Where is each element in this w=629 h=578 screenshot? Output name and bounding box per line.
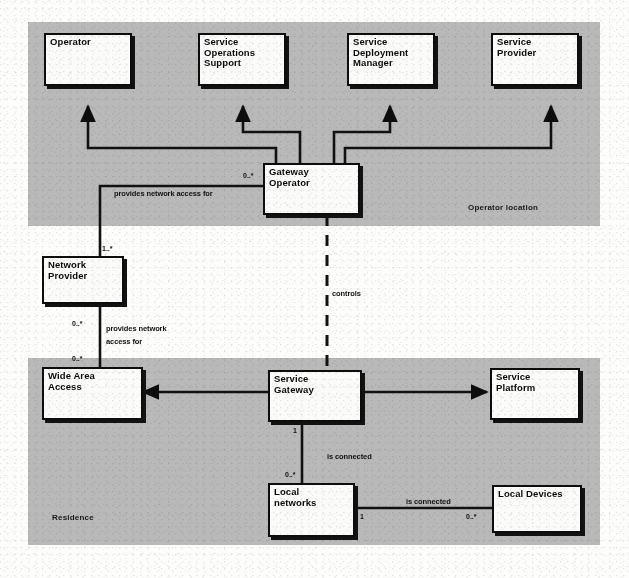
node-service-platform[interactable]: Service Platform bbox=[490, 368, 580, 420]
edge-label-is-connected-devices: is connected bbox=[406, 497, 451, 506]
node-local-devices[interactable]: Local Devices bbox=[492, 485, 582, 533]
diagram-canvas: Operator location Residence bbox=[0, 0, 629, 578]
edge-label-provides-network-line1: provides network bbox=[106, 324, 167, 333]
node-local-networks[interactable]: Local networks bbox=[268, 483, 355, 537]
node-service-deployment-manager[interactable]: Service Deployment Manager bbox=[347, 33, 435, 86]
node-operator[interactable]: Operator bbox=[44, 33, 132, 86]
edge-label-is-connected-gateway: is connected bbox=[327, 452, 372, 461]
node-local-devices-label: Local Devices bbox=[498, 489, 578, 500]
edge-gwop-to-sp bbox=[345, 106, 551, 163]
node-service-operations-support-label: Service Operations Support bbox=[204, 37, 282, 69]
node-service-platform-label: Service Platform bbox=[496, 372, 576, 393]
node-service-gateway-label: Service Gateway bbox=[274, 374, 358, 395]
multiplicity-wide-area-access-top: 0..* bbox=[72, 355, 83, 362]
node-local-networks-label: Local networks bbox=[274, 487, 351, 508]
node-service-provider[interactable]: Service Provider bbox=[491, 33, 579, 86]
edge-label-controls: controls bbox=[332, 289, 361, 298]
edge-label-provides-network-access-for-gateway: provides network access for bbox=[114, 189, 213, 198]
multiplicity-gateway-operator-left: 0..* bbox=[243, 172, 254, 179]
edge-gwop-to-sos bbox=[243, 106, 300, 163]
node-operator-label: Operator bbox=[50, 37, 128, 48]
multiplicity-local-networks-right: 1 bbox=[360, 513, 364, 520]
node-network-provider-label: Network Provider bbox=[48, 260, 120, 281]
node-gateway-operator-label: Gateway Operator bbox=[269, 167, 356, 188]
edge-label-provides-network-line2: access for bbox=[106, 337, 142, 346]
node-network-provider[interactable]: Network Provider bbox=[42, 256, 124, 304]
node-service-provider-label: Service Provider bbox=[497, 37, 575, 58]
multiplicity-local-networks-top: 0..* bbox=[285, 471, 296, 478]
node-service-deployment-manager-label: Service Deployment Manager bbox=[353, 37, 431, 69]
node-wide-area-access-label: Wide Area Access bbox=[48, 371, 139, 392]
edge-gwop-to-sdm bbox=[334, 106, 390, 163]
node-wide-area-access[interactable]: Wide Area Access bbox=[42, 367, 143, 420]
node-service-gateway[interactable]: Service Gateway bbox=[268, 370, 362, 422]
edge-gwop-to-operator bbox=[88, 106, 276, 163]
multiplicity-network-provider-top: 1..* bbox=[102, 245, 113, 252]
node-gateway-operator[interactable]: Gateway Operator bbox=[263, 163, 360, 215]
multiplicity-service-gateway-bottom: 1 bbox=[293, 427, 297, 434]
node-service-operations-support[interactable]: Service Operations Support bbox=[198, 33, 286, 86]
multiplicity-network-provider-bottom: 0..* bbox=[72, 320, 83, 327]
multiplicity-local-devices-left: 0..* bbox=[466, 513, 477, 520]
